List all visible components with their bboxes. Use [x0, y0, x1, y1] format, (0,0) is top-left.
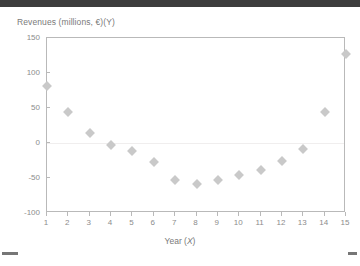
x-axis-tick-label: 2	[65, 218, 69, 227]
data-point-marker	[192, 179, 202, 189]
data-point-marker	[298, 144, 308, 154]
data-point-marker	[341, 49, 351, 59]
x-axis-tick-mark	[238, 212, 239, 216]
y-axis-tick-label: 150	[27, 33, 40, 42]
x-axis-tick-mark	[302, 212, 303, 216]
x-axis-tick-mark	[324, 212, 325, 216]
y-axis-tick-label: -50	[28, 173, 40, 182]
gridline-zero	[47, 143, 344, 144]
x-axis-tick-label: 6	[151, 218, 155, 227]
y-axis-tick-mark	[46, 72, 50, 73]
corner-dash-left	[2, 252, 18, 255]
y-axis-tick-label: 0	[36, 138, 40, 147]
corner-dash-right	[348, 252, 357, 255]
x-axis-title: Year (X)	[0, 236, 360, 246]
x-axis-tick-label: 15	[341, 218, 350, 227]
x-axis-tick-mark	[131, 212, 132, 216]
x-axis-tick-label: 9	[215, 218, 219, 227]
x-axis-tick-mark	[67, 212, 68, 216]
x-axis-title-text: Year (X)	[165, 236, 196, 246]
x-axis-tick-label: 12	[276, 218, 285, 227]
x-axis-tick-mark	[281, 212, 282, 216]
data-point-marker	[127, 146, 137, 156]
data-point-marker	[277, 156, 287, 166]
x-axis-tick-label: 14	[319, 218, 328, 227]
data-point-marker	[234, 170, 244, 180]
x-axis-tick-mark	[345, 212, 346, 216]
data-point-marker	[170, 175, 180, 185]
chart-figure: Revenues (millions, €)(Y) 150100500-50-1…	[0, 7, 360, 266]
x-axis-tick-mark	[46, 212, 47, 216]
x-axis-tick-mark	[217, 212, 218, 216]
x-axis-tick-label: 1	[44, 218, 48, 227]
x-axis-tick-mark	[196, 212, 197, 216]
x-axis-tick-label: 8	[193, 218, 197, 227]
x-axis-tick-mark	[110, 212, 111, 216]
data-point-marker	[213, 175, 223, 185]
x-axis-tick-mark	[153, 212, 154, 216]
y-axis-tick-label: 50	[31, 103, 40, 112]
top-banner-bar	[0, 0, 360, 7]
data-point-marker	[42, 81, 52, 91]
x-axis-tick-label: 4	[108, 218, 112, 227]
y-axis-tick-mark	[46, 142, 50, 143]
data-point-marker	[256, 165, 266, 175]
x-axis-tick-label: 10	[234, 218, 243, 227]
chart-title: Revenues (millions, €)(Y)	[17, 17, 115, 27]
y-axis-labels: 150100500-50-100	[0, 37, 40, 212]
y-axis-tick-label: 100	[27, 68, 40, 77]
data-point-marker	[63, 107, 73, 117]
y-axis-tick-label: -100	[24, 208, 40, 217]
x-axis-tick-label: 7	[172, 218, 176, 227]
x-axis-tick-label: 11	[255, 218, 263, 227]
x-axis-tick-mark	[260, 212, 261, 216]
data-point-marker	[85, 128, 95, 138]
data-point-marker	[320, 107, 330, 117]
data-point-marker	[106, 140, 116, 150]
x-axis-tick-mark	[174, 212, 175, 216]
y-axis-tick-mark	[46, 177, 50, 178]
x-axis-tick-label: 13	[298, 218, 307, 227]
x-axis-tick-mark	[89, 212, 90, 216]
x-axis-tick-label: 5	[129, 218, 133, 227]
x-axis-tick-label: 3	[86, 218, 90, 227]
data-point-marker	[149, 157, 159, 167]
plot-area	[46, 37, 345, 212]
y-axis-tick-mark	[46, 107, 50, 108]
